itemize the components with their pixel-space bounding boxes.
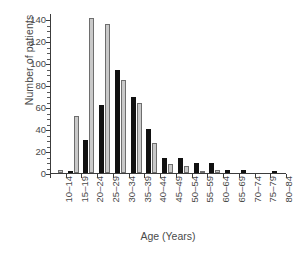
bar-group (240, 14, 256, 173)
x-tick-label: 55–59 (204, 176, 215, 222)
y-tick-minor (47, 59, 50, 60)
bar-light (168, 164, 173, 173)
bar-group (145, 14, 161, 173)
x-tick-label: 45–49 (173, 176, 184, 222)
bar-dark (241, 170, 246, 173)
bar-light (74, 116, 79, 173)
bar-light (215, 170, 220, 173)
bar-dark (209, 163, 214, 173)
bar-group (67, 14, 83, 173)
x-tick-label: 10–14 (63, 176, 74, 222)
y-tick-minor (47, 37, 50, 38)
bar-group (114, 14, 130, 173)
y-tick-label: 120 (18, 38, 46, 48)
bar-light (137, 103, 142, 173)
bar-group (98, 14, 114, 173)
x-tick-label: 50–54 (189, 176, 200, 222)
y-tick-label: 20 (18, 147, 46, 157)
y-tick-minor (47, 114, 50, 115)
x-tick-label: 65–69 (236, 176, 247, 222)
y-tick-minor (47, 158, 50, 159)
x-tick-label: 75–79 (267, 176, 278, 222)
bar-group (177, 14, 193, 173)
bar-dark (178, 158, 183, 173)
x-tick-label: 20–24 (94, 176, 105, 222)
bar-light (105, 24, 110, 173)
bar-dark (225, 170, 230, 173)
bar-group (82, 14, 98, 173)
bar-group (51, 14, 67, 173)
y-tick-minor (47, 70, 50, 71)
bar-chart-figure: Number of patients 020406080100120140 10… (0, 0, 306, 255)
bar-group (271, 14, 287, 173)
y-tick-minor (47, 48, 50, 49)
y-tick-minor (47, 119, 50, 120)
x-tick-label: 70–74 (252, 176, 263, 222)
y-tick-label: 60 (18, 103, 46, 113)
y-tick-minor (47, 103, 50, 104)
bar-dark (131, 97, 136, 173)
y-tick-minor (47, 81, 50, 82)
y-tick-minor (47, 136, 50, 137)
y-tick-minor (47, 163, 50, 164)
bar-group (256, 14, 272, 173)
x-tick-label: 80–84 (283, 176, 294, 222)
bar-dark (83, 140, 88, 173)
y-tick-minor (47, 75, 50, 76)
y-tick-label: 40 (18, 125, 46, 135)
y-tick-label: 0 (18, 169, 46, 179)
x-axis-line (50, 173, 286, 174)
y-tick-minor (47, 169, 50, 170)
y-tick-label: 100 (18, 60, 46, 70)
bar-series-container (51, 14, 286, 173)
y-tick-minor (47, 147, 50, 148)
bar-group (193, 14, 209, 173)
bar-light (58, 170, 63, 173)
x-tick-label: 30–34 (126, 176, 137, 222)
x-axis-title: Age (Years) (50, 230, 286, 242)
y-tick-minor (47, 26, 50, 27)
y-tick-minor (47, 125, 50, 126)
y-tick-minor (47, 53, 50, 54)
bar-group (130, 14, 146, 173)
bar-light (121, 80, 126, 173)
y-tick-minor (47, 141, 50, 142)
bar-light (89, 18, 94, 173)
bar-dark (99, 105, 104, 173)
bar-group (208, 14, 224, 173)
bar-dark (115, 70, 120, 173)
bar-dark (194, 163, 199, 173)
bar-light (184, 166, 189, 173)
bar-dark (146, 129, 151, 173)
y-tick-minor (47, 97, 50, 98)
bar-group (161, 14, 177, 173)
bar-dark (68, 171, 73, 173)
x-tick-label: 15–19 (79, 176, 90, 222)
y-tick-minor (47, 31, 50, 32)
x-tick-label: 35–39 (142, 176, 153, 222)
x-tick-label: 25–29 (110, 176, 121, 222)
bar-dark (162, 158, 167, 173)
bar-dark (272, 171, 277, 173)
x-axis-tick-labels: 10–1415–1920–2425–2930–3435–3940–4445–49… (50, 178, 286, 224)
bar-light (152, 143, 157, 173)
bar-group (224, 14, 240, 173)
x-tick-label: 60–64 (220, 176, 231, 222)
y-tick-minor (47, 92, 50, 93)
y-tick-label: 80 (18, 82, 46, 92)
plot-area (50, 14, 286, 174)
y-tick-label: 140 (18, 16, 46, 26)
bar-light (200, 171, 205, 173)
y-axis-tick-labels: 020406080100120140 (18, 14, 46, 174)
x-tick-label: 40–44 (157, 176, 168, 222)
